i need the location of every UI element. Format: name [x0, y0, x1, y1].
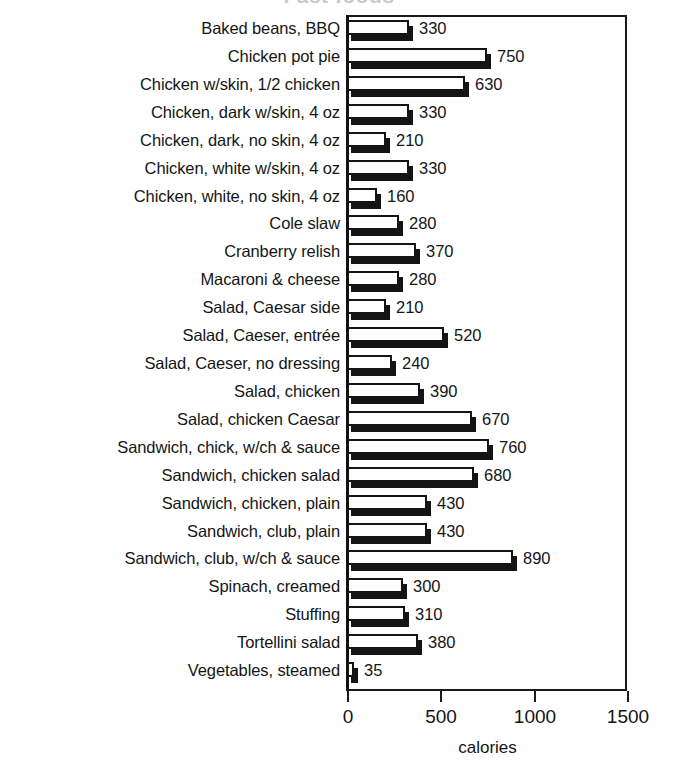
bar-value-label: 670: [482, 409, 510, 430]
bar-face: [347, 160, 409, 175]
chart-page: Fast foods Baked beans, BBQ330Chicken po…: [0, 0, 678, 780]
bar-row: Chicken pot pie750: [0, 46, 678, 76]
category-label: Salad, Caeser, no dressing: [144, 353, 340, 374]
category-label: Sandwich, club, plain: [187, 521, 340, 542]
bar-face: [347, 76, 465, 91]
category-label: Sandwich, chick, w/ch & sauce: [117, 437, 340, 458]
x-axis-tick-label: 1500: [607, 705, 649, 729]
bar-face: [347, 495, 427, 510]
bar-value-label: 890: [523, 548, 551, 569]
bar-row: Vegetables, steamed35: [0, 660, 678, 690]
bar-face: [347, 327, 444, 342]
bar-face: [347, 606, 405, 621]
bar-row: Sandwich, club, plain430: [0, 521, 678, 551]
bar-row: Baked beans, BBQ330: [0, 18, 678, 48]
bar-row: Chicken, white, no skin, 4 oz160: [0, 186, 678, 216]
bar-face: [347, 299, 386, 314]
bar-value-label: 330: [419, 102, 447, 123]
bar: [347, 662, 359, 684]
bar-row: Chicken, dark, no skin, 4 oz210: [0, 130, 678, 160]
bar: [347, 299, 391, 321]
bar-value-label: 330: [419, 158, 447, 179]
chart-title-cropped: Fast foods: [0, 0, 678, 6]
bar-face: [347, 550, 513, 565]
bar-row: Salad, Caesar side210: [0, 297, 678, 327]
bar-value-label: 760: [499, 437, 527, 458]
bar-value-label: 35: [364, 660, 382, 681]
bar-row: Tortellini salad380: [0, 632, 678, 662]
category-label: Macaroni & cheese: [200, 269, 340, 290]
bar: [347, 20, 414, 42]
bar: [347, 578, 408, 600]
bar-value-label: 210: [396, 130, 424, 151]
bar-face: [347, 411, 472, 426]
chart-title-text: Fast foods: [0, 0, 678, 6]
bar-value-label: 390: [430, 381, 458, 402]
bar: [347, 411, 477, 433]
x-axis-title: calories: [347, 738, 628, 758]
bar-value-label: 750: [497, 46, 525, 67]
bar-row: Cranberry relish370: [0, 241, 678, 271]
bar: [347, 160, 414, 182]
bar-face: [347, 215, 399, 230]
bar: [347, 215, 404, 237]
bar-value-label: 280: [409, 269, 437, 290]
category-label: Vegetables, steamed: [188, 660, 340, 681]
bar-row: Salad, Caeser, entrée520: [0, 325, 678, 355]
bar-row: Salad, Caeser, no dressing240: [0, 353, 678, 383]
bar: [347, 104, 414, 126]
bar-face: [347, 188, 377, 203]
bar-row: Stuffing310: [0, 604, 678, 634]
bar-value-label: 160: [387, 186, 415, 207]
bar-row: Sandwich, club, w/ch & sauce890: [0, 548, 678, 578]
category-label: Chicken, white w/skin, 4 oz: [145, 158, 340, 179]
bar-face: [347, 48, 487, 63]
bar-value-label: 240: [402, 353, 430, 374]
category-label: Cranberry relish: [224, 241, 340, 262]
x-axis-tick-label: 500: [425, 705, 457, 729]
bar-value-label: 210: [396, 297, 424, 318]
bar-face: [347, 467, 474, 482]
bar-row: Chicken w/skin, 1/2 chicken630: [0, 74, 678, 104]
bar: [347, 383, 425, 405]
bar: [347, 48, 492, 70]
category-label: Sandwich, club, w/ch & sauce: [125, 548, 340, 569]
bar-face: [347, 20, 409, 35]
category-label: Baked beans, BBQ: [201, 18, 340, 39]
bar-row: Chicken, dark w/skin, 4 oz330: [0, 102, 678, 132]
bar-row: Spinach, creamed300: [0, 576, 678, 606]
bar-face: [347, 439, 489, 454]
bar: [347, 188, 382, 210]
category-label: Cole slaw: [269, 213, 340, 234]
category-label: Chicken, dark, no skin, 4 oz: [140, 130, 340, 151]
bar-row: Salad, chicken390: [0, 381, 678, 411]
bar-face: [347, 634, 418, 649]
bar: [347, 523, 432, 545]
bar-value-label: 370: [426, 241, 454, 262]
bar-value-label: 680: [484, 465, 512, 486]
category-label: Salad, Caesar side: [202, 297, 340, 318]
category-label: Salad, chicken: [234, 381, 340, 402]
category-label: Chicken, dark w/skin, 4 oz: [151, 102, 340, 123]
bar-row: Sandwich, chicken salad680: [0, 465, 678, 495]
bar: [347, 550, 518, 572]
bar-face: [347, 355, 392, 370]
bar-face: [347, 383, 420, 398]
bar-value-label: 520: [454, 325, 482, 346]
bar-row: Cole slaw280: [0, 213, 678, 243]
bar-value-label: 310: [415, 604, 443, 625]
bar-face: [347, 271, 399, 286]
bar: [347, 132, 391, 154]
bar: [347, 634, 423, 656]
bar-value-label: 280: [409, 213, 437, 234]
bar: [347, 606, 410, 628]
category-label: Spinach, creamed: [209, 576, 340, 597]
bar-value-label: 300: [413, 576, 441, 597]
bar: [347, 243, 421, 265]
bar-row: Sandwich, chicken, plain430: [0, 493, 678, 523]
bar: [347, 439, 494, 461]
bar-value-label: 630: [475, 74, 503, 95]
bar-row: Salad, chicken Caesar670: [0, 409, 678, 439]
bar-value-label: 330: [419, 18, 447, 39]
x-axis-tick-label: 1000: [514, 705, 556, 729]
